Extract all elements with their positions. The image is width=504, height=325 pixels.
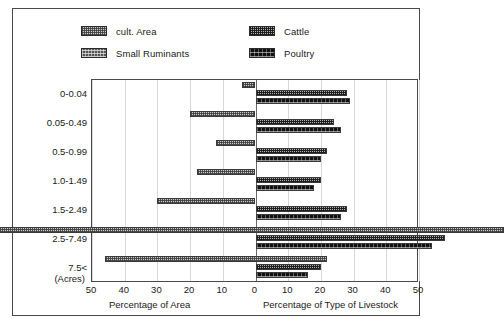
x-tick-label: 40 bbox=[370, 284, 400, 295]
bar-poultry bbox=[256, 185, 315, 191]
legend-label-small-ruminants: Small Ruminants bbox=[116, 48, 189, 59]
x-tick-label: 20 bbox=[174, 284, 204, 295]
gridline bbox=[419, 80, 420, 281]
y-tick-label: 2.5-7.49 bbox=[15, 233, 87, 244]
y-tick-label: 0.05-0.49 bbox=[15, 117, 87, 128]
x-tick-label: 30 bbox=[338, 284, 368, 295]
y-tick-label: 7.5< bbox=[15, 262, 87, 273]
x-axis-titles: Percentage of Area Percentage of Type of… bbox=[13, 299, 445, 313]
plot-area bbox=[91, 79, 418, 282]
legend-swatch-poultry bbox=[249, 48, 275, 58]
gridline bbox=[321, 80, 322, 281]
bar-poultry bbox=[256, 156, 321, 162]
bar-cult-area bbox=[242, 82, 255, 88]
bar-cattle bbox=[256, 177, 321, 183]
x-tick-label: 0 bbox=[240, 284, 270, 295]
bar-poultry bbox=[256, 98, 351, 104]
bar-cattle bbox=[256, 206, 348, 212]
y-axis-labels: 0-0.040.05-0.490.5-0.991.0-1.491.5-2.492… bbox=[13, 79, 87, 282]
bar-poultry bbox=[256, 272, 308, 278]
legend-swatch-cult-area bbox=[81, 26, 107, 36]
gridline bbox=[354, 80, 355, 281]
bar-cult-area bbox=[197, 169, 256, 175]
bar-cattle bbox=[256, 90, 348, 96]
legend-item-poultry: Poultry bbox=[249, 45, 314, 61]
y-tick-label: 0.5-0.99 bbox=[15, 146, 87, 157]
bar-cult-area bbox=[190, 111, 255, 117]
x-tick-label: 40 bbox=[109, 284, 139, 295]
x-tick-label: 50 bbox=[76, 284, 106, 295]
bar-cattle bbox=[256, 264, 321, 270]
legend-item-small-ruminants: Small Ruminants bbox=[81, 45, 189, 61]
x-tick-label: 10 bbox=[272, 284, 302, 295]
gridline bbox=[92, 80, 93, 281]
bar-cult-area bbox=[216, 140, 255, 146]
y-tick-label: 1.5-2.49 bbox=[15, 204, 87, 215]
x-axis-ticks: 504030201001020304050 bbox=[91, 284, 418, 298]
x-tick-label: 10 bbox=[207, 284, 237, 295]
legend-label-cattle: Cattle bbox=[284, 26, 309, 37]
bar-cattle bbox=[256, 148, 328, 154]
gridline bbox=[386, 80, 387, 281]
bar-cult-area bbox=[0, 227, 504, 233]
legend-swatch-cattle bbox=[249, 26, 275, 36]
y-tick-label: 0-0.04 bbox=[15, 88, 87, 99]
bar-poultry bbox=[256, 214, 341, 220]
legend-label-poultry: Poultry bbox=[284, 48, 314, 59]
bar-cult-area bbox=[157, 198, 255, 204]
legend-swatch-small-ruminants bbox=[81, 48, 107, 58]
x-axis-title-left: Percentage of Area bbox=[109, 299, 190, 310]
bar-cattle bbox=[256, 119, 334, 125]
bar-poultry bbox=[256, 127, 341, 133]
bar-cattle bbox=[256, 235, 446, 241]
x-tick-label: 30 bbox=[141, 284, 171, 295]
legend-item-cattle: Cattle bbox=[249, 23, 309, 39]
gridline bbox=[157, 80, 158, 281]
bar-poultry bbox=[256, 243, 433, 249]
legend-label-cult-area: cult. Area bbox=[116, 26, 157, 37]
gridline bbox=[125, 80, 126, 281]
y-axis-unit-label: (Acres) bbox=[13, 273, 85, 284]
chart-legend: cult. Area Small Ruminants Cattle Poultr… bbox=[73, 23, 403, 65]
legend-item-cult-area: cult. Area bbox=[81, 23, 157, 39]
x-tick-label: 50 bbox=[403, 284, 433, 295]
x-axis-title-right: Percentage of Type of Livestock bbox=[263, 299, 398, 310]
bar-cult-area bbox=[105, 256, 327, 262]
figure-frame: cult. Area Small Ruminants Cattle Poultr… bbox=[12, 8, 420, 316]
x-tick-label: 20 bbox=[305, 284, 335, 295]
y-tick-label: 1.0-1.49 bbox=[15, 175, 87, 186]
